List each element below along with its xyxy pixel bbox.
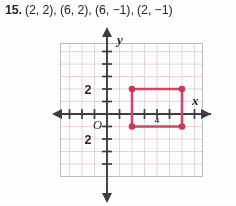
x-axis-arrow-right-icon <box>201 109 211 119</box>
vertex-point-6-neg1 <box>179 123 186 130</box>
y-axis-tick-label-positive-2: 2 <box>85 83 92 97</box>
coordinate-plane-svg: y x O 2 2 4 <box>0 22 236 206</box>
problem-coordinate-list: (2, 2), (6, 2), (6, −1), (2, −1) <box>25 3 173 17</box>
vertex-point-2-neg1 <box>129 123 136 130</box>
origin-label: O <box>93 118 102 132</box>
problem-number: 15. <box>5 3 22 17</box>
x-axis-label: x <box>191 93 199 108</box>
x-axis-arrow-left-icon <box>52 109 62 119</box>
coordinate-plane-figure: y x O 2 2 4 <box>0 22 236 206</box>
problem-header: 15. (2, 2), (6, 2), (6, −1), (2, −1) <box>5 3 236 21</box>
y-axis-label: y <box>115 32 123 47</box>
y-axis-tick-label-negative-2: 2 <box>85 133 92 147</box>
vertex-point-6-2 <box>179 86 186 93</box>
y-axis-arrow-down-icon <box>102 193 112 203</box>
vertex-point-2-2 <box>129 86 136 93</box>
y-axis-arrow-up-icon <box>102 27 112 37</box>
x-axis-tick-label-4: 4 <box>155 116 160 125</box>
